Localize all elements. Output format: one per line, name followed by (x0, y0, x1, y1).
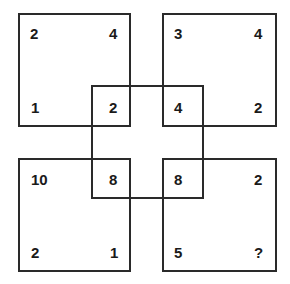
tr-square-top-left-number: 3 (174, 26, 182, 41)
tl-square-bottom-left-number: 1 (31, 100, 39, 115)
br-square-top-left-number: 8 (174, 172, 182, 187)
question-mark-unknown: ? (254, 245, 263, 260)
br-square-top-right-number: 2 (254, 172, 262, 187)
square-center (91, 85, 204, 199)
tr-square-bottom-left-number: 4 (174, 100, 182, 115)
tl-square-top-left-number: 2 (30, 26, 38, 41)
bl-square-bottom-left-number: 2 (31, 245, 39, 260)
bl-square-top-left-number: 10 (31, 172, 48, 187)
br-square-bottom-left-number: 5 (174, 245, 182, 260)
bl-square-top-right-number: 8 (109, 172, 117, 187)
bl-square-bottom-right-number: 1 (110, 245, 118, 260)
tl-square-bottom-right-number: 2 (109, 100, 117, 115)
tl-square-top-right-number: 4 (109, 26, 117, 41)
tr-square-top-right-number: 4 (254, 26, 262, 41)
tr-square-bottom-right-number: 2 (254, 100, 262, 115)
